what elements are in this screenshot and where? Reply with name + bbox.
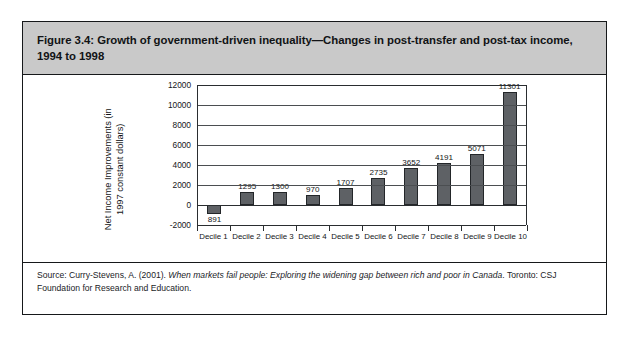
bar-slot: 891 [198, 85, 231, 225]
x-tick-mark [428, 225, 429, 231]
bar-slot: 4191 [428, 85, 461, 225]
x-tick-mark [527, 225, 528, 231]
x-tick-label: Decile 3 [265, 232, 294, 241]
x-tick-label: Decile 4 [298, 232, 327, 241]
y-tick-label: 0 [186, 200, 191, 210]
bar-value-label: 2735 [369, 168, 387, 177]
bar-slot: 1707 [329, 85, 362, 225]
bar-slot: 5071 [460, 85, 493, 225]
bar [503, 92, 517, 205]
chart-region: Net Income Improvements (in1997 constant… [23, 75, 606, 262]
gridline [198, 185, 526, 186]
y-tick-label: 2000 [173, 180, 191, 190]
y-tick-label: 8000 [173, 120, 191, 130]
y-tick-label: -2000 [170, 220, 191, 230]
plot-area: 891129513009701707273536524191507111301 [197, 85, 527, 225]
bar [240, 192, 254, 205]
bar-series: 891129513009701707273536524191507111301 [198, 85, 526, 225]
bar-slot: 1300 [264, 85, 297, 225]
bar-value-label: 970 [306, 185, 320, 194]
y-axis-ticks: 120001000080006000400020000-2000 [163, 85, 195, 225]
x-tick-label: Decile 1 [199, 232, 228, 241]
gridline [198, 145, 526, 146]
bar [470, 154, 484, 205]
bar-slot: 3652 [395, 85, 428, 225]
x-tick-mark [197, 225, 198, 231]
x-tick-label: Decile 6 [364, 232, 393, 241]
gridline [198, 85, 526, 86]
bar [207, 205, 221, 214]
bar [371, 178, 385, 205]
bar-value-label: 3652 [402, 158, 420, 167]
figure-page: Figure 3.4: Growth of government-driven … [0, 0, 631, 345]
x-axis-tick-marks [197, 225, 527, 232]
x-tick-mark [461, 225, 462, 231]
x-tick-mark [296, 225, 297, 231]
y-axis-label-wrap: Net Income Improvements (in1997 constant… [103, 83, 125, 255]
y-tick-label: 4000 [173, 160, 191, 170]
source-citation: Source: Curry-Stevens, A. (2001). When m… [37, 269, 592, 295]
x-tick-mark [263, 225, 264, 231]
bar-value-label: 1300 [271, 182, 289, 191]
x-tick-label: Decile 9 [463, 232, 492, 241]
y-axis-label: Net Income Improvements (in1997 constant… [102, 108, 127, 230]
bar [273, 192, 287, 205]
bar-slot: 11301 [493, 85, 526, 225]
source-prefix: Source: Curry-Stevens, A. (2001). [37, 270, 168, 280]
footer-divider [23, 262, 606, 263]
bar-value-label: 1295 [238, 182, 256, 191]
bar-value-label: 11301 [499, 82, 521, 91]
y-tick-label: 10000 [168, 100, 191, 110]
source-title: When markets fail people: Exploring the … [168, 270, 502, 280]
bar-slot: 1295 [231, 85, 264, 225]
figure-title: Figure 3.4: Growth of government-driven … [37, 32, 606, 64]
x-tick-label: Decile 2 [232, 232, 261, 241]
bar [339, 188, 353, 205]
x-tick-label: Decile 10 [494, 232, 527, 241]
bar-value-label: 4191 [435, 153, 453, 162]
y-tick-label: 6000 [173, 140, 191, 150]
bar-value-label: 891 [208, 215, 222, 224]
gridline [198, 105, 526, 106]
x-tick-mark [494, 225, 495, 231]
x-tick-label: Decile 7 [397, 232, 426, 241]
bar [306, 195, 320, 205]
figure-title-banner: Figure 3.4: Growth of government-driven … [23, 22, 606, 75]
x-tick-label: Decile 5 [331, 232, 360, 241]
x-axis-labels: Decile 1Decile 2Decile 3Decile 4Decile 5… [197, 232, 527, 246]
x-tick-label: Decile 8 [430, 232, 459, 241]
plot-outer: 120001000080006000400020000-2000 8911295… [163, 85, 563, 253]
x-tick-mark [395, 225, 396, 231]
bar [404, 168, 418, 205]
bar-slot: 2735 [362, 85, 395, 225]
gridline [198, 125, 526, 126]
y-tick-label: 12000 [168, 80, 191, 90]
bar-slot: 970 [296, 85, 329, 225]
gridline [198, 165, 526, 166]
x-tick-mark [329, 225, 330, 231]
x-tick-mark [230, 225, 231, 231]
x-tick-mark [362, 225, 363, 231]
gridline [198, 205, 526, 206]
figure-box: Figure 3.4: Growth of government-driven … [22, 21, 607, 315]
